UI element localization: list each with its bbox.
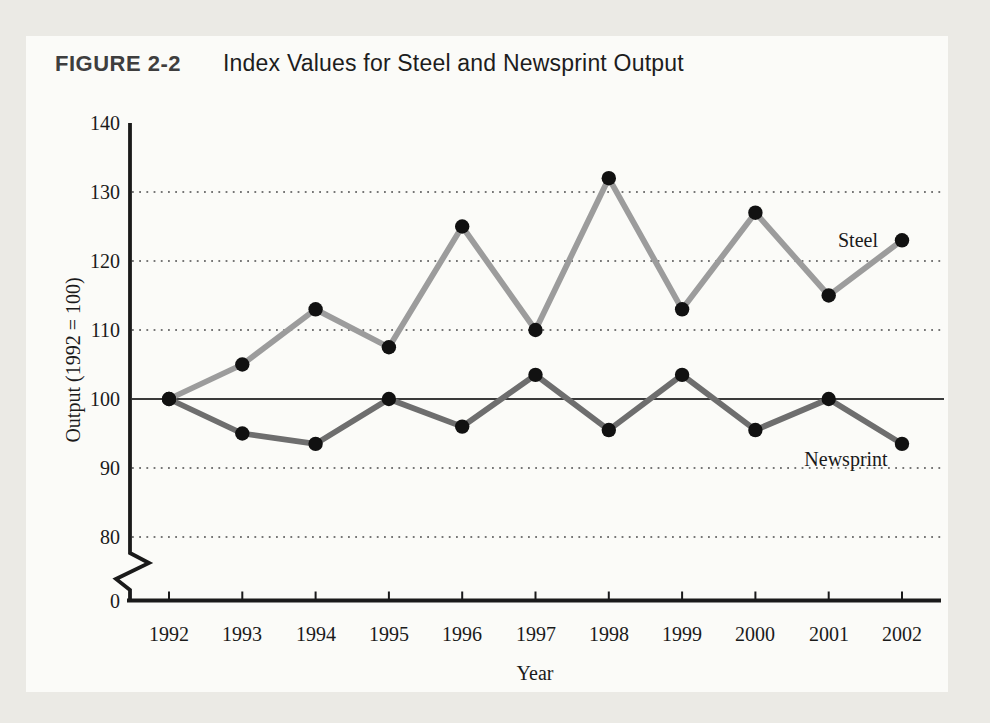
data-point-marker (235, 357, 249, 371)
data-point-marker (822, 288, 836, 302)
x-tick-label: 1996 (429, 623, 495, 645)
line-chart (0, 0, 990, 723)
data-point-marker (455, 419, 469, 433)
data-point-marker (382, 340, 396, 354)
data-point-marker (748, 206, 762, 220)
data-point-marker (455, 219, 469, 233)
steel-line (169, 178, 902, 399)
data-point-marker (308, 437, 322, 451)
y-tick-label: 120 (62, 250, 120, 272)
data-point-marker (162, 392, 176, 406)
y-tick-label: 110 (62, 319, 120, 341)
y-tick-label: 0 (62, 590, 120, 612)
y-axis-with-break (116, 123, 149, 602)
data-point-marker (528, 368, 542, 382)
data-point-marker (822, 392, 836, 406)
x-tick-label: 1995 (356, 623, 422, 645)
data-point-marker (895, 233, 909, 247)
x-tick-label: 1992 (136, 623, 202, 645)
data-point-marker (235, 426, 249, 440)
data-point-marker (528, 323, 542, 337)
x-tick-label: 1994 (283, 623, 349, 645)
y-tick-label: 100 (62, 388, 120, 410)
x-tick-label: 1998 (576, 623, 642, 645)
steel-series-label: Steel (820, 229, 896, 252)
x-tick-label: 1993 (209, 623, 275, 645)
data-point-marker (602, 423, 616, 437)
data-point-marker (675, 302, 689, 316)
newsprint-line (169, 375, 902, 444)
x-tick-label: 1997 (503, 623, 569, 645)
y-tick-label: 130 (62, 181, 120, 203)
x-axis-title: Year (485, 662, 585, 685)
newsprint-series-label: Newsprint (786, 448, 906, 471)
y-tick-label: 80 (62, 526, 120, 548)
data-point-marker (748, 423, 762, 437)
x-tick-label: 1999 (649, 623, 715, 645)
y-axis-title: Output (1992 = 100) (62, 272, 84, 448)
x-tick-label: 2002 (869, 623, 935, 645)
y-tick-label: 140 (62, 112, 120, 134)
textbook-page: FIGURE 2-2 Index Values for Steel and Ne… (0, 0, 990, 723)
data-point-marker (382, 392, 396, 406)
x-tick-label: 2000 (722, 623, 788, 645)
data-point-marker (675, 368, 689, 382)
y-tick-label: 90 (62, 457, 120, 479)
data-point-marker (602, 171, 616, 185)
x-tick-label: 2001 (796, 623, 862, 645)
data-point-marker (308, 302, 322, 316)
